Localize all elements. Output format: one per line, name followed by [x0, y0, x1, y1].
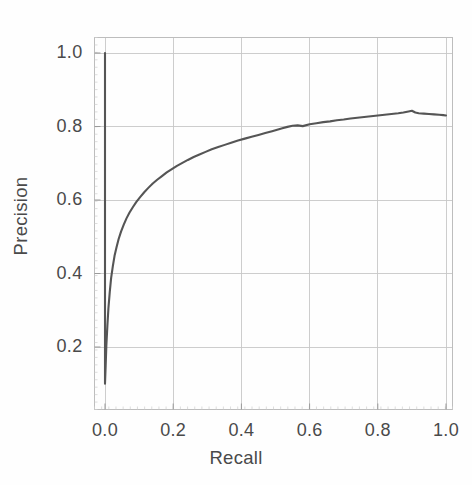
plot-canvas — [0, 0, 472, 485]
tick-marks — [95, 38, 453, 410]
y-tick-label: 1.0 — [37, 42, 83, 63]
x-tick-label: 0.0 — [80, 420, 130, 441]
y-tick-label: 0.6 — [37, 189, 83, 210]
x-tick-label: 0.8 — [353, 420, 403, 441]
y-tick-label: 0.8 — [37, 116, 83, 137]
y-axis-title: Precision — [10, 166, 32, 266]
y-tick-label: 0.2 — [37, 336, 83, 357]
x-tick-label: 1.0 — [421, 420, 471, 441]
gridlines — [95, 38, 453, 410]
x-tick-label: 0.4 — [216, 420, 266, 441]
precision-recall-chart: 0.20.40.60.81.0 0.00.20.40.60.81.0 Preci… — [0, 0, 472, 485]
x-tick-label: 0.6 — [285, 420, 335, 441]
x-tick-label: 0.2 — [148, 420, 198, 441]
data-curve — [105, 53, 446, 384]
plot-frame — [95, 38, 453, 410]
y-tick-label: 0.4 — [37, 263, 83, 284]
x-axis-title: Recall — [0, 447, 472, 469]
